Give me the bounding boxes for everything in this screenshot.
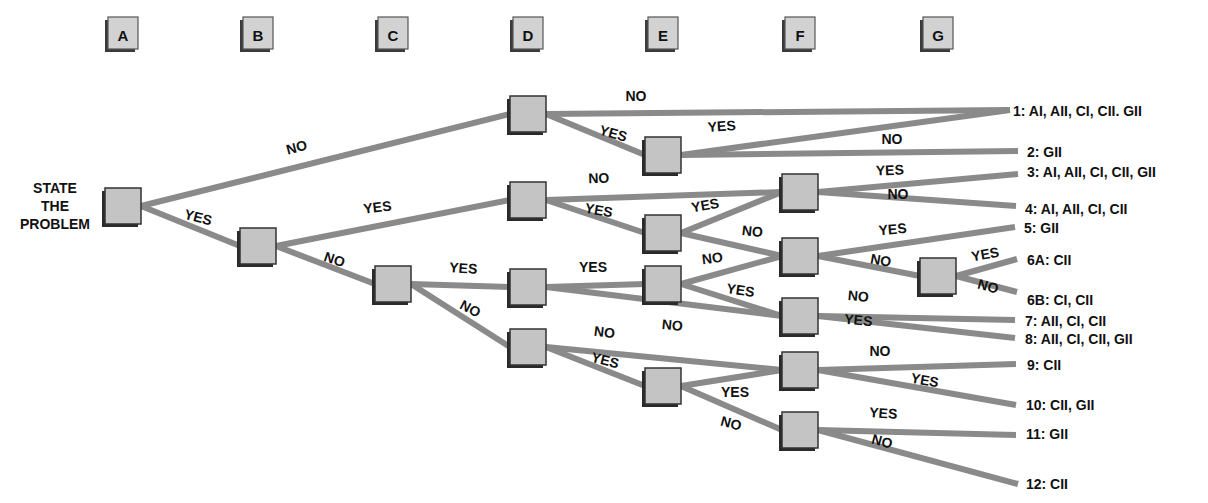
column-label: A [118, 27, 129, 44]
column-label: E [658, 27, 668, 44]
edge-yes-d1-e1 [546, 114, 645, 155]
outcomes: 1: AI, AII, CI, CII. GII2: GII3: AI, AII… [1013, 103, 1156, 492]
edge-label-no: NO [284, 137, 309, 158]
outcome-5: 5: GII [1024, 220, 1059, 236]
edge-no-a1-d1 [141, 114, 510, 206]
decision-node-f1 [779, 174, 818, 213]
decision-node-e4 [642, 368, 681, 407]
edge-yes-c1-d3 [411, 284, 510, 287]
edge-label-no: NO [719, 413, 744, 434]
edge-label-yes: YES [363, 197, 393, 216]
edge-no-e2-f2 [681, 233, 782, 256]
edge-yes-f1-out3 [818, 174, 1018, 192]
decision-node-b1 [237, 228, 276, 267]
decision-tree: ABCDEFG NOYESYESNOYESNONOYESYESNONOYESYE… [0, 0, 1208, 503]
column-header-a: A [105, 17, 138, 52]
edge-label-yes: YES [878, 220, 907, 238]
edge-no-f4-out9 [818, 364, 1016, 370]
edge-label-no: NO [870, 343, 891, 359]
edge-label-no: NO [976, 276, 1001, 297]
edge-label-no: NO [701, 249, 724, 267]
edge-no-f1-out4 [818, 192, 1016, 206]
edge-label-no: NO [888, 186, 909, 202]
column-header-b: B [240, 17, 273, 52]
edge-label-yes: YES [579, 259, 607, 275]
outcome-1: 1: AI, AII, CI, CII. GII [1013, 103, 1142, 119]
column-header-c: C [375, 17, 408, 52]
edge-no-c1-d4 [411, 284, 510, 347]
decision-node-d3 [507, 269, 546, 308]
outcome-4: 4: AI, AII, CI, CII [1025, 201, 1127, 217]
decision-node-d4 [507, 329, 546, 368]
edge-label-yes: YES [970, 244, 1000, 265]
edge-label-yes: YES [721, 384, 749, 400]
decision-node-f2 [779, 238, 818, 277]
edge-no-d2-f1 [546, 192, 782, 200]
start-label-line: PROBLEM [20, 216, 90, 232]
edge-label-yes: YES [876, 162, 905, 179]
outcome-12: 12: CII [1026, 476, 1068, 492]
start-label: STATETHEPROBLEM [20, 180, 90, 232]
decision-node-g1 [917, 258, 956, 297]
edge-label-no: NO [741, 222, 764, 240]
decision-node-f4 [779, 352, 818, 391]
outcome-7: 7: AII, CI, CII [1025, 313, 1106, 329]
edge-label-no: NO [661, 316, 683, 334]
column-header-d: D [510, 17, 543, 52]
decision-node-f5 [779, 412, 818, 451]
start-label-line: THE [41, 198, 69, 214]
outcome-6b: 6B: CI, CII [1027, 292, 1093, 308]
column-label: C [388, 27, 399, 44]
edge-yes-f5-out11 [818, 430, 1016, 435]
edge-label-yes: YES [598, 122, 629, 145]
edge-label-no: NO [588, 170, 610, 187]
edge-yes-b1-d2 [276, 200, 510, 246]
outcome-6a: 6A: CII [1027, 252, 1071, 268]
outcome-11: 11: GII [1026, 426, 1068, 442]
column-label: F [795, 27, 804, 44]
edge-label-no: NO [593, 323, 616, 341]
edge-label-yes: YES [844, 311, 873, 329]
edge-label-no: NO [882, 131, 903, 147]
edge-label-no: NO [847, 287, 869, 305]
column-label: D [523, 27, 534, 44]
decision-nodes [102, 96, 956, 451]
decision-node-a1 [102, 188, 141, 227]
edge-no-d1-out1 [546, 110, 1010, 114]
edge-label-no: NO [626, 88, 647, 104]
edge-label-yes: YES [449, 259, 478, 277]
edge-label-yes: YES [707, 117, 736, 135]
decision-node-d2 [507, 182, 546, 221]
decision-node-d1 [507, 96, 546, 135]
column-header-g: G [920, 17, 953, 52]
outcome-10: 10: CII, GII [1026, 397, 1094, 413]
column-header-f: F [782, 17, 815, 52]
edge-label-yes: YES [690, 195, 720, 216]
decision-node-f3 [779, 298, 818, 337]
column-label: B [253, 27, 264, 44]
column-label: G [932, 27, 944, 44]
edge-no-f5-out12 [818, 430, 1018, 484]
column-header-e: E [645, 17, 678, 52]
decision-node-e3 [642, 266, 681, 305]
outcome-8: 8: AII, CI, CII, GII [1025, 331, 1133, 347]
edge-label-yes: YES [869, 404, 898, 422]
column-headers: ABCDEFG [105, 17, 953, 52]
start-label-line: STATE [33, 180, 77, 196]
outcome-3: 3: AI, AII, CI, CII, GII [1027, 164, 1156, 180]
decision-node-e2 [642, 215, 681, 254]
decision-node-c1 [372, 266, 411, 305]
edge-no-e1-out2 [681, 151, 1018, 155]
edge-label-yes: YES [584, 200, 614, 221]
outcome-9: 9: CII [1027, 357, 1061, 373]
decision-node-e1 [642, 137, 681, 176]
outcome-2: 2: GII [1027, 144, 1062, 160]
